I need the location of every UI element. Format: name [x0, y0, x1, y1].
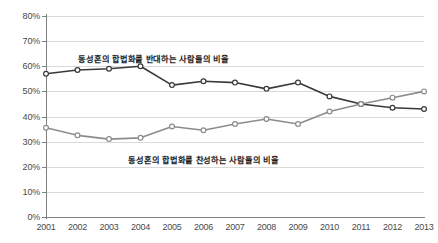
data-point [170, 83, 175, 88]
data-point [201, 128, 206, 133]
y-axis-tick-label: 70% [6, 37, 40, 46]
y-axis-tick-label: 0% [6, 213, 40, 222]
data-point [44, 71, 49, 76]
data-point [138, 135, 143, 140]
data-point [75, 68, 80, 73]
data-point [75, 133, 80, 138]
y-axis-tick-label: 10% [6, 188, 40, 197]
x-axis-tick-label: 2007 [218, 222, 252, 233]
series-label-oppose: 동성혼의 합법화를 반대하는 사람들의 비율 [78, 52, 229, 64]
series-label-support: 동성혼의 합법화를 찬성하는 사람들의 비율 [128, 153, 279, 165]
data-point [296, 80, 301, 85]
data-point [422, 89, 427, 94]
y-axis-tick-label: 30% [6, 138, 40, 147]
data-point [233, 122, 238, 127]
x-axis-tick-label: 2005 [155, 222, 189, 233]
series-line [46, 91, 424, 139]
series-support [44, 89, 427, 142]
data-point [107, 137, 112, 142]
x-axis-tick-label: 2010 [313, 222, 347, 233]
y-axis-tick-label: 60% [6, 62, 40, 71]
y-axis-labels: 80%70%60%50%40%30%20%10%0% [0, 0, 40, 243]
x-axis-tick-label: 2001 [29, 222, 63, 233]
data-point [170, 124, 175, 129]
series-oppose [44, 64, 427, 112]
x-axis-tick-label: 2012 [376, 222, 410, 233]
data-point [107, 66, 112, 71]
y-axis-tick-label: 80% [6, 12, 40, 21]
data-point [390, 95, 395, 100]
x-axis-tick-label: 2013 [407, 222, 438, 233]
data-point [44, 125, 49, 130]
data-point [296, 122, 301, 127]
x-axis-tick-label: 2004 [124, 222, 158, 233]
data-point [264, 86, 269, 91]
data-point [327, 109, 332, 114]
data-point [422, 107, 427, 112]
data-point [359, 102, 364, 107]
x-axis-tick-label: 2003 [92, 222, 126, 233]
x-axis-line [46, 217, 425, 218]
x-axis-tick-label: 2002 [61, 222, 95, 233]
data-point [233, 80, 238, 85]
y-axis-tick-label: 20% [6, 163, 40, 172]
y-axis-tick-label: 40% [6, 113, 40, 122]
y-axis-tick-label: 50% [6, 87, 40, 96]
data-point [264, 117, 269, 122]
data-point [201, 79, 206, 84]
x-axis-tick-label: 2011 [344, 222, 378, 233]
series-layer [46, 16, 424, 217]
x-axis-tick-label: 2009 [281, 222, 315, 233]
y-axis-tick [42, 217, 46, 218]
x-axis-tick-label: 2008 [250, 222, 284, 233]
data-point [138, 64, 143, 69]
x-axis-labels: 2001200220032004200520062007200820092010… [46, 222, 424, 238]
data-point [390, 105, 395, 110]
x-axis-tick-label: 2006 [187, 222, 221, 233]
data-point [327, 94, 332, 99]
